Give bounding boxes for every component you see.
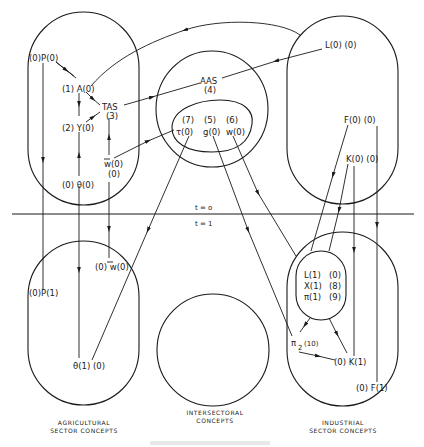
intersectoral-t1-region — [157, 294, 269, 406]
node-wbar0: w(0) — [104, 159, 123, 169]
intersectoral-caption-line2: CONCEPTS — [196, 417, 233, 424]
intersectoral-inner-group — [172, 100, 252, 152]
node-tau0: τ(0) — [176, 127, 193, 137]
figure-caption-faint — [150, 441, 270, 445]
industrial-caption-line1: INDUSTRIAL — [322, 419, 364, 426]
node-w-order: (6) — [226, 115, 238, 125]
node-g-order: (5) — [204, 115, 216, 125]
node-Y0: (2) Y(0) — [62, 123, 94, 133]
node-wbar1: (0) w(0) — [95, 262, 129, 272]
node-AAS-order: (4) — [204, 85, 216, 95]
node-theta0: (0) θ(0) — [62, 180, 94, 190]
node-pi1: π(1) — [304, 292, 321, 302]
time-label-t1: t = 1 — [195, 220, 213, 228]
agricultural-caption-line1: AGRICULTURAL — [58, 419, 110, 426]
node-w0: w(0) — [226, 127, 245, 137]
node-pi2-order: (10) — [304, 340, 319, 348]
node-K1: (0) K(1) — [334, 357, 366, 367]
node-theta1: θ(1) (0) — [73, 361, 105, 371]
node-X1: X(1) — [304, 281, 322, 291]
intersectoral-caption-line1: INTERSECTORAL — [186, 409, 243, 416]
node-K0: K(0) (0) — [346, 154, 378, 164]
node-wbar0-order: (0) — [108, 169, 120, 179]
node-g0: g(0) — [203, 127, 220, 137]
agricultural-caption-line2: SECTOR CONCEPTS — [50, 427, 118, 434]
node-A0: (1) A(0) — [62, 84, 95, 94]
node-L1-order: (0) — [329, 270, 341, 280]
causal-order-diagram: (0)P(0) (1) A(0) TAS (3) (2) Y(0) w(0) (… — [0, 0, 424, 447]
node-L1: L(1) — [304, 270, 321, 280]
node-tau-order: (7) — [182, 115, 194, 125]
node-F0: F(0) (0) — [344, 115, 376, 125]
node-pi2-sub: 2 — [298, 344, 302, 352]
node-L0: L(0) (0) — [325, 40, 357, 50]
node-TAS-order: (3) — [106, 111, 118, 121]
node-P1: (0)P(1) — [29, 288, 58, 298]
node-P0: (0)P(0) — [29, 53, 58, 63]
node-pi2: π — [291, 338, 296, 348]
agricultural-t0-region — [28, 12, 139, 205]
node-F1: (0) F(1) — [356, 383, 388, 393]
time-label-t0: t = o — [195, 204, 212, 212]
node-pi1-order: (9) — [329, 292, 341, 302]
node-X1-order: (8) — [329, 281, 341, 291]
industrial-caption-line2: SECTOR CONCEPTS — [309, 427, 377, 434]
